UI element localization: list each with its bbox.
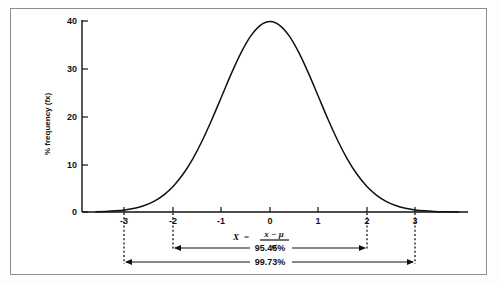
formula-equals: = (244, 232, 249, 242)
span-9973: 99.73% (126, 257, 413, 267)
span-9545-label: 95.45% (255, 243, 286, 253)
y-tick-label-30: 30 (67, 64, 77, 74)
x-tick-label-neg1: -1 (217, 216, 225, 226)
span-9973-label: 99.73% (255, 257, 286, 267)
formula-variable: X (232, 232, 240, 242)
x-tick-label-1: 1 (315, 216, 320, 226)
y-tick-label-10: 10 (67, 160, 77, 170)
x-tick-label-0: 0 (267, 216, 272, 226)
y-tick-label-20: 20 (67, 112, 77, 122)
normal-curve-path (96, 22, 459, 212)
normal-distribution-chart: 40 30 20 10 0 % frequency (fx) -3 -2 -1 … (0, 0, 499, 283)
y-axis: 40 30 20 10 0 % frequency (fx) (43, 16, 88, 217)
y-axis-title: % frequency (fx) (43, 92, 52, 155)
y-tick-label-40: 40 (67, 16, 77, 26)
span-9545: 95.45% (175, 243, 365, 253)
formula-numerator: x − μ (263, 229, 283, 239)
figure-page: 40 30 20 10 0 % frequency (fx) -3 -2 -1 … (0, 0, 499, 283)
y-tick-label-0: 0 (72, 207, 77, 217)
